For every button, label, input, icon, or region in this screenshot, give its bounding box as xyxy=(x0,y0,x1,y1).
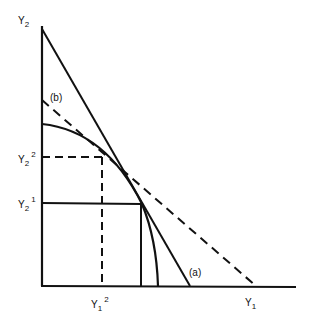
y2-axis-label: Y2 xyxy=(18,16,29,29)
x-axis xyxy=(41,286,296,287)
y2-1-tick-label: Y21 xyxy=(18,196,36,213)
y1-2-tick-label: Y12 xyxy=(91,296,109,313)
budget-line-a xyxy=(42,29,190,286)
line-a-label: (a) xyxy=(189,268,201,278)
line-b-label: (b) xyxy=(50,93,62,103)
diagram-canvas xyxy=(0,0,312,326)
budget-line-b xyxy=(42,100,256,286)
y2-1-guide xyxy=(42,203,141,204)
y1-axis-label: Y1 xyxy=(245,298,256,311)
y2-2-tick-label: Y22 xyxy=(18,151,36,168)
